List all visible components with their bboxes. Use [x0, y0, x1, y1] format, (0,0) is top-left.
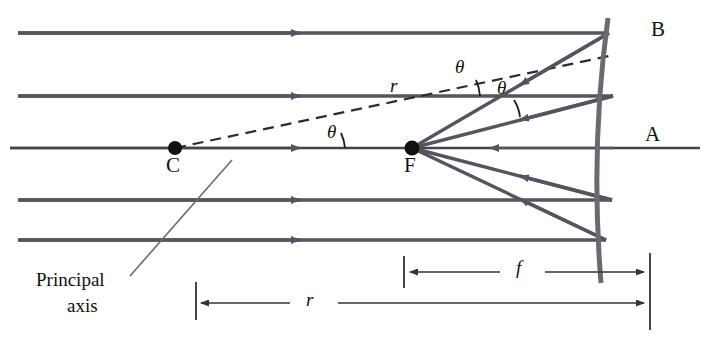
diagram-canvas: [0, 0, 705, 350]
reflected-ray-5: [412, 148, 606, 240]
label-mirror-vertex-A: A: [645, 123, 660, 145]
label-theta-at-C: θ: [327, 122, 336, 142]
principal-axis-leader-line: [130, 160, 232, 276]
reflected-ray-4: [412, 148, 612, 200]
radius-dimension: [196, 282, 644, 320]
angle-arc-upper-right: [514, 100, 520, 117]
label-theta-upper-right: θ: [497, 78, 506, 98]
label-radius-ray: r: [390, 76, 397, 96]
label-center-of-curvature: C: [166, 154, 180, 176]
focal-length-dimension: [404, 253, 650, 330]
label-radius-dimension: r: [306, 290, 313, 310]
angle-arc-at-C: [341, 133, 345, 148]
label-principal-axis-line1: Principal: [36, 270, 105, 290]
reflected-ray-group: [412, 33, 613, 240]
label-focal-length: f: [516, 258, 521, 278]
label-theta-upper-left: θ: [455, 57, 464, 77]
label-principal-axis-line2: axis: [67, 296, 98, 316]
label-focal-point: F: [404, 154, 416, 176]
incoming-ray-group: [18, 33, 613, 240]
reflected-ray-2: [412, 96, 613, 148]
label-mirror-edge-B: B: [651, 18, 665, 40]
ray-diagram-figure: C F A B θ θ θ r f r Principal axis: [0, 0, 705, 350]
